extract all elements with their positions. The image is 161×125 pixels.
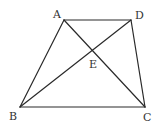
label-B: B xyxy=(9,110,17,123)
label-D: D xyxy=(135,9,144,22)
label-A: A xyxy=(52,8,62,21)
label-C: C xyxy=(143,111,151,124)
segment-BA xyxy=(20,20,64,107)
label-E: E xyxy=(89,58,97,71)
trapezoid-diagram: A D B C E xyxy=(0,0,161,125)
